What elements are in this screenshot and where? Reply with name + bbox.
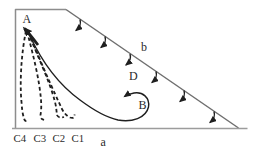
label-b-slope: b — [141, 40, 147, 54]
label-c2: C2 — [53, 132, 66, 144]
trajectory-c3 — [27, 32, 45, 121]
slope-flow-arrow-icon — [152, 72, 156, 83]
dashed-trajectories — [21, 31, 75, 121]
trajectory-c1 — [29, 33, 75, 118]
figure-canvas: A b D B a C4 C3 C2 C1 — [0, 0, 255, 151]
label-a-apex: A — [23, 12, 32, 26]
slope-flow-arrow-icon — [126, 54, 130, 65]
label-b-loop: B — [139, 98, 147, 112]
left-top-border — [16, 10, 67, 129]
label-c4: C4 — [14, 132, 27, 144]
slope-edge — [66, 10, 239, 129]
label-c1: C1 — [72, 132, 85, 144]
diagram-svg: A b D B a C4 C3 C2 C1 — [0, 0, 255, 151]
slope-flow-arrow-icon — [210, 112, 214, 123]
label-d-region: D — [129, 69, 138, 83]
slope-flow-arrow-icon — [101, 37, 105, 48]
slope-flow-arrow-icon — [180, 91, 184, 102]
slope-flow-arrow-icon — [76, 20, 80, 31]
trajectory-c4 — [21, 31, 27, 121]
label-c3: C3 — [34, 132, 47, 144]
label-a-base: a — [101, 135, 107, 149]
apex-arrow-icon — [25, 29, 39, 46]
